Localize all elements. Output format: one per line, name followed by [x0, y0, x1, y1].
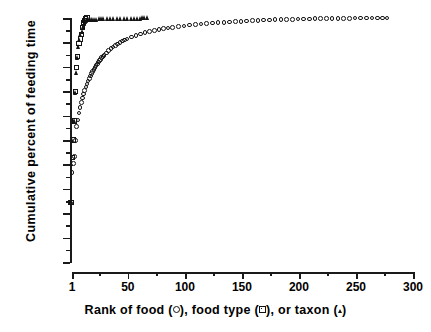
x-tick-minor: [384, 272, 386, 276]
y-tick: [63, 238, 70, 240]
y-axis-title: Cumulative percent of feeding time: [24, 6, 38, 256]
data-point: [170, 25, 175, 30]
data-point: [307, 17, 312, 22]
x-tick: [413, 272, 415, 279]
data-point: [296, 17, 301, 22]
data-point: [69, 161, 73, 166]
y-tick: [63, 67, 70, 69]
data-point: [68, 200, 72, 205]
x-axis-title-part3: ), or taxon (: [266, 303, 338, 317]
legend-open-circle-icon: [173, 306, 180, 313]
data-point: [70, 170, 75, 175]
data-point: [284, 17, 289, 22]
y-tick-minor: [66, 152, 70, 154]
data-point: [77, 111, 82, 116]
chart-figure: Cumulative percent of feeding time 01020…: [0, 0, 431, 332]
x-axis-title-part4: ): [342, 303, 346, 317]
data-point: [199, 22, 204, 27]
data-point: [324, 16, 329, 21]
data-point: [204, 21, 209, 26]
x-tick: [242, 272, 244, 279]
legend-open-square-icon: [259, 306, 266, 313]
data-point: [256, 18, 261, 23]
x-tick: [72, 272, 74, 279]
x-tick-label: 300: [383, 281, 431, 293]
data-point: [216, 20, 221, 25]
data-point: [279, 17, 284, 22]
data-point: [72, 118, 76, 123]
x-tick-minor: [213, 272, 215, 276]
data-point: [261, 18, 266, 23]
data-point: [79, 100, 84, 105]
data-point: [210, 21, 215, 26]
data-point: [358, 16, 363, 21]
data-point: [267, 18, 272, 23]
data-point: [222, 20, 227, 25]
data-point: [75, 55, 79, 60]
data-point: [70, 138, 74, 143]
y-tick-minor: [66, 55, 70, 57]
data-point: [370, 16, 375, 21]
x-tick: [356, 272, 358, 279]
data-point: [318, 16, 323, 21]
x-axis-title: Rank of food (), food type (), or taxon …: [0, 303, 431, 317]
x-tick-label: 50: [98, 281, 158, 293]
data-point: [336, 16, 341, 21]
data-point: [77, 37, 81, 42]
data-point: [385, 16, 390, 21]
data-point: [193, 22, 198, 27]
data-point: [176, 24, 181, 29]
data-point: [347, 16, 352, 21]
x-axis-title-part1: Rank of food (: [85, 303, 173, 317]
data-point: [73, 90, 77, 95]
y-tick: [63, 18, 70, 20]
data-point: [364, 16, 369, 21]
data-point: [330, 16, 335, 21]
x-tick-label: 100: [155, 281, 215, 293]
y-tick-minor: [66, 103, 70, 105]
x-tick: [185, 272, 187, 279]
x-tick-label: 250: [326, 281, 386, 293]
data-point: [145, 15, 149, 20]
data-point: [76, 44, 80, 49]
legend-filled-triangle-icon: [338, 309, 342, 313]
y-tick-minor: [66, 128, 70, 130]
y-tick: [63, 262, 70, 264]
y-tick-minor: [66, 79, 70, 81]
data-point: [290, 17, 295, 22]
data-point: [78, 105, 83, 110]
data-point: [244, 19, 249, 24]
x-tick-minor: [156, 272, 158, 276]
y-tick: [63, 140, 70, 142]
data-point: [74, 70, 78, 75]
data-point: [227, 20, 232, 25]
y-tick: [63, 116, 70, 118]
y-tick: [63, 213, 70, 215]
data-point: [152, 28, 157, 33]
x-tick-minor: [327, 272, 329, 276]
x-tick-label: 1: [42, 281, 102, 293]
x-tick-minor: [99, 272, 101, 276]
data-point: [80, 96, 85, 101]
data-point: [74, 124, 79, 129]
y-tick: [63, 42, 70, 44]
data-point: [233, 19, 238, 24]
data-point: [301, 17, 306, 22]
data-point: [187, 23, 192, 28]
data-point: [239, 19, 244, 24]
data-point: [250, 18, 255, 23]
y-tick: [63, 189, 70, 191]
data-point: [313, 16, 318, 21]
data-point: [70, 155, 75, 160]
x-axis-title-part2: ), food type (: [180, 303, 259, 317]
y-tick-minor: [66, 177, 70, 179]
y-tick-minor: [66, 30, 70, 32]
y-tick-minor: [66, 225, 70, 227]
data-point: [380, 16, 385, 21]
data-point: [161, 26, 166, 31]
y-tick-minor: [66, 250, 70, 252]
data-point: [353, 16, 358, 21]
data-point: [273, 17, 278, 22]
x-tick-minor: [270, 272, 272, 276]
data-point: [341, 16, 346, 21]
